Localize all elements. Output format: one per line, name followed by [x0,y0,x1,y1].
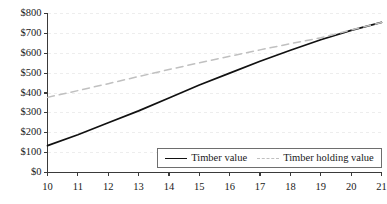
chart-container: $0$100$200$300$400$500$600$700$800 10111… [0,0,387,204]
legend-label-timber-value: Timber value [191,153,247,164]
x-tick-label: 14 [155,182,183,193]
chart-series [48,22,382,145]
y-tick-label: $500 [21,68,42,79]
x-tick-label: 19 [307,182,335,193]
y-tick-label: $800 [21,8,42,19]
y-tick-label: $400 [21,88,42,99]
x-tick-label: 12 [94,182,122,193]
y-tick-label: $300 [21,107,42,118]
y-tick-label: $0 [31,167,42,178]
x-tick-label: 20 [337,182,365,193]
x-tick-label: 16 [216,182,244,193]
x-tick-label: 10 [34,182,62,193]
legend-label-timber-holding-value: Timber holding value [283,153,374,164]
x-tick-label: 21 [368,182,387,193]
legend-item-timber-holding-value: Timber holding value [257,153,374,164]
x-tick-label: 13 [125,182,153,193]
legend-item-timber-value: Timber value [165,153,247,164]
x-tick-label: 15 [185,182,213,193]
series-line-timber-value [48,22,382,145]
y-tick-label: $700 [21,28,42,39]
x-tick-label: 11 [64,182,92,193]
legend-solid-line-icon [165,154,187,162]
y-tick-label: $600 [21,48,42,59]
legend-dashed-line-icon [257,154,279,162]
x-tick-label: 18 [276,182,304,193]
x-tick-label: 17 [246,182,274,193]
y-tick-label: $100 [21,147,42,158]
line-chart-canvas [0,0,387,204]
chart-legend: Timber value Timber holding value [157,148,382,168]
y-tick-label: $200 [21,127,42,138]
